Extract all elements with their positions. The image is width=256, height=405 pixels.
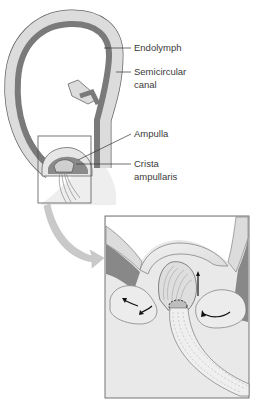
enlarged-crista-panel (105, 216, 249, 398)
label-crista-2: ampullaris (134, 171, 177, 183)
label-semicircular-canal-2: canal (134, 79, 157, 91)
zoom-arrow (44, 204, 104, 268)
label-semicircular-canal-1: Semicircular (134, 66, 186, 78)
label-crista-1: Crista (134, 158, 159, 170)
label-endolymph: Endolymph (134, 42, 182, 54)
label-ampulla: Ampulla (134, 128, 168, 140)
semicircular-canal-diagram (0, 0, 256, 405)
